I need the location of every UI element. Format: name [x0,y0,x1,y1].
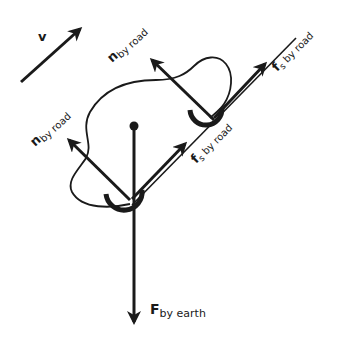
gravity-force: Fby earth [130,122,206,323]
normal-force-front: nby road [104,22,214,120]
normal-front-label: nby road [104,22,150,67]
friction-rear-arrow-icon [132,144,185,199]
normal-rear-label: nby road [27,106,73,151]
friction-front-label: fs by road [269,27,317,75]
friction-front-arrow-icon [214,64,265,118]
velocity-label: v [38,29,47,44]
friction-force-rear: fs by road [132,119,236,199]
normal-force-rear: nby road [27,106,130,200]
velocity-vector: v [21,29,80,82]
gravity-label: Fby earth [150,301,206,320]
free-body-diagram: v nby road fs by road nby road fs by roa… [0,0,342,342]
velocity-arrow-icon [21,29,80,82]
normal-front-arrow-icon [152,60,214,120]
car-body-outline [71,57,232,206]
